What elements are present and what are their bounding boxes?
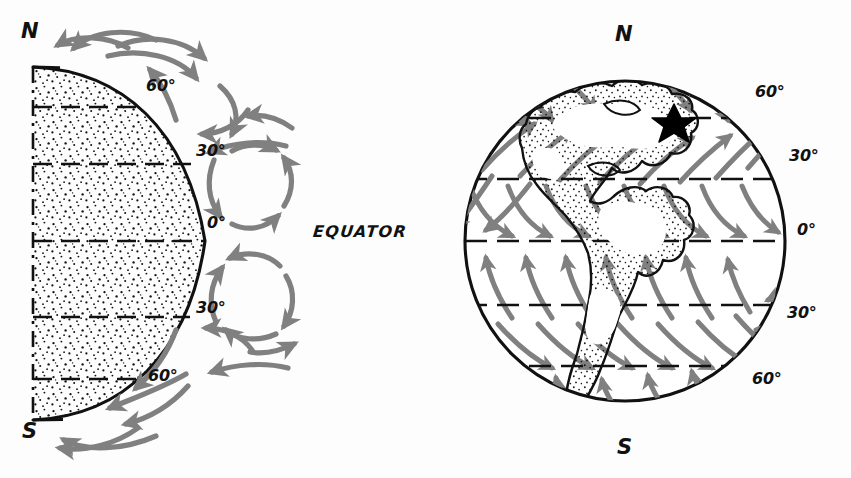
- left-south-pole-label: S: [22, 421, 37, 442]
- globe-lat-0-label: 0°: [797, 222, 816, 238]
- globe-lat-60n-label: 60°: [755, 84, 785, 100]
- left-lat-30s-label: 30°: [196, 300, 226, 316]
- left-lat-30n-label: 30°: [196, 143, 226, 159]
- globe-lat-60s-label: 60°: [752, 371, 782, 387]
- globe: [456, 70, 802, 420]
- globe-south-pole-label: S: [617, 437, 632, 458]
- figure-canvas: N S 60° 30° 0° 30° 60° EQUATOR N S 60° 3…: [0, 0, 851, 478]
- left-north-pole-label: N: [21, 21, 38, 42]
- cross-section-body: [33, 67, 205, 420]
- equator-label: EQUATOR: [312, 224, 408, 240]
- globe-lat-30n-label: 30°: [789, 148, 819, 164]
- left-lat-60s-label: 60°: [148, 368, 178, 384]
- left-lat-0-label: 0°: [207, 215, 226, 231]
- globe-north-pole-label: N: [615, 24, 632, 45]
- globe-lat-30s-label: 30°: [787, 305, 817, 321]
- left-lat-60n-label: 60°: [146, 78, 176, 94]
- diagram-artwork: [0, 0, 851, 478]
